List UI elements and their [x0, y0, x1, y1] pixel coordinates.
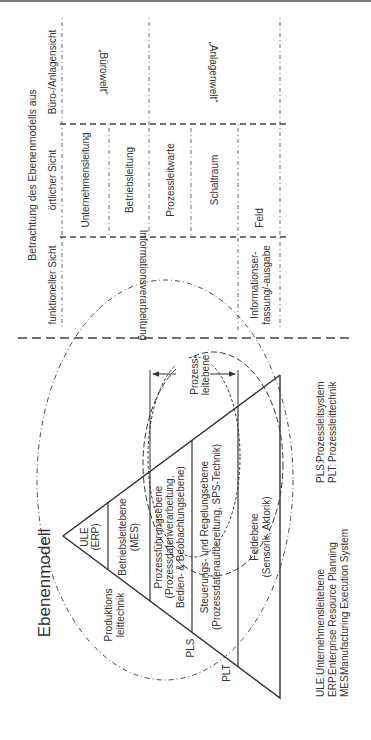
cell-informationserfassung-2: fassung/-ausgabe	[261, 245, 272, 325]
cell-buerowelt: „Bürowelt“	[98, 49, 109, 95]
view-table	[18, 18, 350, 338]
legend-pls-text: Prozessleitsystem	[315, 381, 326, 462]
legend-ule-abbr: ULE:	[315, 675, 326, 697]
label-plt: PLT	[221, 664, 232, 682]
ebenenmodell-diagram: Betrachtung des Ebenenmodells aus funkti…	[0, 0, 371, 740]
cell-schaltraum: Schaltraum	[209, 155, 220, 206]
level-feld: Feldebene	[249, 513, 260, 561]
level-steuerung-sub: (Prozessdatenaufbereitung, SPS-Technik)	[211, 444, 222, 630]
legend-mes-text: Manufacturing Execution System	[339, 529, 350, 675]
col-header-funktionell: funktioneller Sicht	[47, 245, 58, 324]
level-betrieb: Betriebsleitebene	[117, 498, 128, 576]
cell-prozessleitwarte: Prozessleitwarte	[165, 143, 176, 217]
legend-left: ULE: Unternehmensleitebene ERP: Enterpri…	[315, 529, 350, 697]
legend-mes-abbr: MES:	[339, 673, 350, 697]
legend-plt-text: Prozessleittechnik	[327, 380, 338, 462]
label-produktionsleittechnik-2: leittechnik	[115, 592, 126, 637]
legend-pls-abbr: PLS:	[315, 461, 326, 483]
level-prozessfuehrung-sub: (Prozessdatenverarbeitung,	[164, 476, 175, 599]
legend-erp-abbr: ERP:	[327, 674, 338, 697]
legend-right: PLS: Prozessleitsystem PLT: Prozessleitt…	[315, 380, 338, 483]
legend-ule-text: Unternehmensleitebene	[315, 568, 326, 675]
legend-plt-abbr: PLT:	[327, 464, 338, 483]
label-produktionsleittechnik-1: Produktions	[103, 589, 114, 642]
prozessleitebene-label-1: Prozess-	[189, 355, 200, 394]
level-ule-sub: (ERP)	[90, 523, 101, 550]
level-prozessfuehrung: Prozessführungsebene	[153, 485, 164, 588]
level-steuerung: Steuerungs- und Regelungsebene	[199, 460, 210, 613]
label-pls: PLS	[185, 638, 196, 657]
table-header: Betrachtung des Ebenenmodells aus	[26, 89, 38, 261]
level-ule: ULE	[79, 527, 90, 547]
diagram-title: Ebenenmodell	[35, 529, 54, 638]
col-header-buero: Büro-/Anlagensicht	[47, 30, 58, 115]
cell-unternehmensleitung: Unternehmensleitung	[80, 132, 91, 227]
level-betrieb-sub: (MES)	[129, 523, 140, 551]
cell-betriebsleitung: Betriebsleitung	[124, 147, 135, 213]
legend-erp-text: Enterprise Resource Planning	[327, 542, 338, 675]
cell-anlagenwelt: „Anlagenwelt“	[208, 41, 219, 102]
cell-informationsverarbeitung: Informationsverarbeitung	[138, 230, 149, 341]
cell-feld: Feld	[254, 208, 265, 227]
col-header-oertlich: örtlicher Sicht	[47, 149, 58, 210]
cell-informationserfassung-1: Informationser-	[249, 251, 260, 318]
prozessleitebene-label-2: leitebene	[200, 354, 211, 395]
level-feld-sub: (Sensorik, Aktorik)	[261, 496, 272, 577]
level-prozessfuehrung-sub2: Bedien- & Beobachtungsebene)	[175, 466, 186, 608]
